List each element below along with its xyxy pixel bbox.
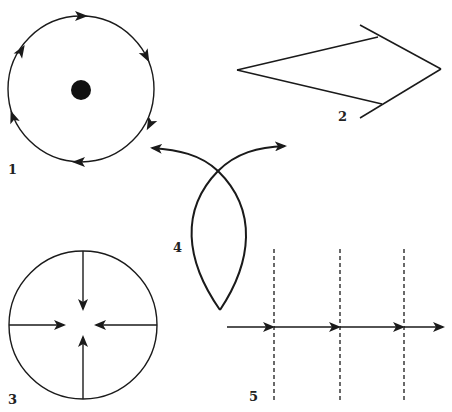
panel-3-converging: 3: [8, 251, 157, 407]
kite-upper-edge: [237, 37, 378, 70]
panel-label-2: 2: [338, 109, 347, 124]
panel-label-1: 1: [8, 162, 17, 177]
panel-4-crossing-loop: 4: [152, 146, 285, 310]
panel-5-dashed-crossing: 5: [227, 249, 443, 404]
panel-1-orbit: 1: [6, 11, 157, 177]
kite-lower-edge: [237, 70, 382, 104]
loop-branch-left: [192, 146, 285, 310]
panel-label-4: 4: [173, 240, 182, 255]
loop-branch-right: [152, 148, 246, 310]
central-dot: [71, 80, 91, 100]
kite-right-lower: [360, 69, 441, 118]
kite-right-upper: [360, 25, 441, 69]
panel-2-kite: 2: [237, 25, 441, 124]
panel-label-3: 3: [8, 392, 17, 407]
panel-label-5: 5: [249, 389, 258, 404]
diagram-canvas: 1 2 3 4 5: [0, 0, 452, 412]
